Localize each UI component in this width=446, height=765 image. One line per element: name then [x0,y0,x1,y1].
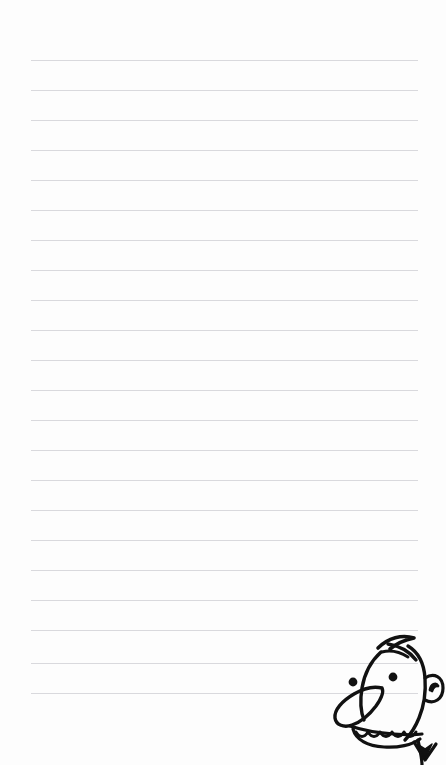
rule-line [31,120,418,121]
rule-line [31,210,418,211]
ruled-lines-group [0,0,446,765]
rule-line [31,90,418,91]
rule-line [31,180,418,181]
rule-line [31,663,418,664]
rule-line [31,570,418,571]
rule-line [31,480,418,481]
notebook-page [0,0,446,765]
rule-line [31,330,418,331]
rule-line [31,240,418,241]
rule-line [31,360,418,361]
rule-line [31,60,418,61]
rule-line [31,300,418,301]
rule-line [31,270,418,271]
rule-line [31,150,418,151]
rule-line [31,450,418,451]
rule-line [31,540,418,541]
rule-line [31,420,418,421]
rule-line [31,390,418,391]
rule-line [31,510,418,511]
rule-line [31,693,418,694]
rule-line [31,600,418,601]
rule-line [31,630,418,631]
